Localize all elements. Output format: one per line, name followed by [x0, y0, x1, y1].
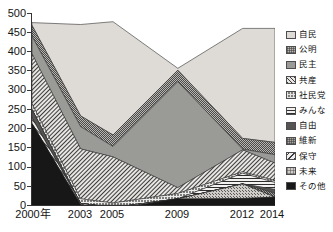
stacked-area-chart: 500 450 400 350 300 250 200 150 100 50 0 [0, 0, 333, 232]
legend-item-ishin[interactable]: 維新 [286, 133, 333, 148]
plot-inner [32, 13, 275, 205]
legend-swatch-minshu [286, 61, 296, 69]
x-tick-label-2014: 2014 [260, 209, 284, 220]
chart-title-cropped [0, 0, 333, 5]
legend-swatch-jimin [286, 31, 296, 39]
y-axis: 500 450 400 350 300 250 200 150 100 50 0 [0, 0, 29, 232]
y-tick-label: 250 [8, 104, 26, 115]
x-tick-label-2012: 2012 [230, 209, 254, 220]
legend-item-kyosan[interactable]: 共産 [286, 73, 333, 88]
legend-label-shamin: 社民党 [299, 91, 325, 100]
y-tick-label: 300 [8, 84, 26, 95]
legend-label-ishin: 維新 [299, 136, 317, 145]
legend-item-mirai[interactable]: 未来 [286, 164, 333, 179]
legend-swatch-komei [286, 46, 296, 54]
legend-item-minna[interactable]: みんな [286, 103, 333, 118]
y-tick-label: 500 [8, 8, 26, 19]
legend-label-mirai: 未来 [299, 167, 317, 176]
legend-swatch-shamin [286, 91, 296, 99]
y-tick-label: 400 [8, 46, 26, 57]
legend-label-kyosan: 共産 [299, 76, 317, 85]
legend-item-shamin[interactable]: 社民党 [286, 88, 333, 103]
y-tick-label: 100 [8, 161, 26, 172]
y-tick-label: 50 [14, 181, 26, 192]
area-series-svg [32, 13, 275, 205]
legend-label-hoshu: 保守 [299, 152, 317, 161]
legend-label-sonota: その他 [299, 182, 325, 191]
legend-item-komei[interactable]: 公明 [286, 42, 333, 57]
legend-label-jiyu: 自由 [299, 121, 317, 130]
legend-label-jimin: 自民 [299, 30, 317, 39]
legend-swatch-kyosan [286, 76, 296, 84]
legend-swatch-mirai [286, 167, 296, 175]
x-tick-label-2005: 2005 [100, 209, 124, 220]
chart-legend: 自民 公明 民主 共産 社民党 みんな 自由 維新 [286, 27, 333, 194]
x-tick-label-2009: 2009 [165, 209, 189, 220]
legend-label-komei: 公明 [299, 45, 317, 54]
x-tick-label-2003: 2003 [68, 209, 92, 220]
y-tick-label: 350 [8, 65, 26, 76]
legend-swatch-jiyu [286, 122, 296, 130]
legend-swatch-minna [286, 107, 296, 115]
legend-item-hoshu[interactable]: 保守 [286, 149, 333, 164]
x-tick-label-2000: 2000年 [15, 209, 50, 220]
y-tick-label: 450 [8, 27, 26, 38]
legend-swatch-hoshu [286, 152, 296, 160]
legend-item-jiyu[interactable]: 自由 [286, 118, 333, 133]
plot-area [31, 13, 275, 206]
legend-swatch-sonota [286, 182, 296, 190]
legend-item-sonota[interactable]: その他 [286, 179, 333, 194]
legend-item-jimin[interactable]: 自民 [286, 27, 333, 42]
legend-label-minna: みんな [299, 106, 325, 115]
y-tick-label: 150 [8, 142, 26, 153]
legend-label-minshu: 民主 [299, 60, 317, 69]
legend-item-minshu[interactable]: 民主 [286, 57, 333, 72]
y-tick-label: 200 [8, 123, 26, 134]
legend-swatch-ishin [286, 137, 296, 145]
